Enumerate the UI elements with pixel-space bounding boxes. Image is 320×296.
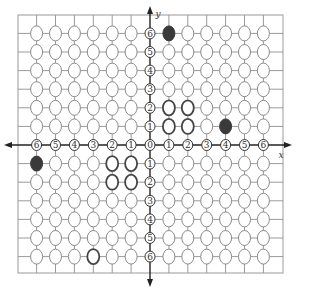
grid-point[interactable]	[106, 45, 118, 60]
grid-point[interactable]	[50, 26, 62, 41]
grid-point[interactable]	[257, 193, 269, 208]
grid-point[interactable]	[68, 82, 80, 97]
grid-point[interactable]	[31, 119, 43, 134]
grid-point[interactable]	[239, 63, 251, 78]
grid-point[interactable]	[182, 193, 194, 208]
grid-point[interactable]	[125, 63, 137, 78]
grid-point[interactable]	[87, 45, 99, 60]
grid-point[interactable]	[239, 119, 251, 134]
grid-point[interactable]	[87, 100, 99, 115]
grid-point[interactable]	[31, 63, 43, 78]
grid-point[interactable]	[87, 63, 99, 78]
grid-point[interactable]	[163, 82, 175, 97]
grid-point[interactable]	[239, 249, 251, 264]
grid-point[interactable]	[220, 212, 232, 227]
grid-point[interactable]	[182, 156, 194, 171]
grid-point[interactable]	[125, 231, 137, 246]
grid-point[interactable]	[201, 175, 213, 190]
grid-point[interactable]	[87, 119, 99, 134]
grid-point[interactable]	[220, 26, 232, 41]
grid-point[interactable]	[106, 212, 118, 227]
grid-point[interactable]	[257, 231, 269, 246]
grid-point[interactable]	[239, 231, 251, 246]
grid-point[interactable]	[68, 193, 80, 208]
grid-point[interactable]	[50, 82, 62, 97]
grid-point[interactable]	[201, 193, 213, 208]
grid-point[interactable]	[201, 100, 213, 115]
grid-point[interactable]	[125, 100, 137, 115]
grid-point[interactable]	[182, 63, 194, 78]
grid-point[interactable]	[50, 45, 62, 60]
grid-point[interactable]	[239, 156, 251, 171]
grid-point[interactable]	[68, 119, 80, 134]
grid-point[interactable]	[31, 231, 43, 246]
grid-point[interactable]	[68, 212, 80, 227]
grid-point[interactable]	[220, 45, 232, 60]
grid-point[interactable]	[220, 193, 232, 208]
grid-point[interactable]	[220, 175, 232, 190]
grid-point[interactable]	[106, 100, 118, 115]
grid-point[interactable]	[31, 193, 43, 208]
grid-point[interactable]	[163, 175, 175, 190]
grid-point[interactable]	[220, 100, 232, 115]
grid-point[interactable]	[68, 100, 80, 115]
grid-point[interactable]	[68, 231, 80, 246]
grid-point[interactable]	[125, 193, 137, 208]
grid-point[interactable]	[220, 156, 232, 171]
grid-point[interactable]	[257, 82, 269, 97]
grid-point[interactable]	[220, 249, 232, 264]
grid-point[interactable]	[31, 82, 43, 97]
grid-point[interactable]	[125, 249, 137, 264]
grid-point[interactable]	[201, 63, 213, 78]
grid-point[interactable]	[106, 193, 118, 208]
grid-point[interactable]	[257, 100, 269, 115]
grid-point[interactable]	[106, 26, 118, 41]
grid-point[interactable]	[87, 156, 99, 171]
grid-point[interactable]	[220, 63, 232, 78]
grid-point[interactable]	[182, 249, 194, 264]
grid-point[interactable]	[68, 175, 80, 190]
grid-point[interactable]	[50, 119, 62, 134]
grid-point[interactable]	[68, 249, 80, 264]
grid-point[interactable]	[201, 45, 213, 60]
grid-point[interactable]	[87, 193, 99, 208]
grid-point[interactable]	[257, 45, 269, 60]
grid-point[interactable]	[125, 26, 137, 41]
grid-point[interactable]	[163, 63, 175, 78]
grid-point[interactable]	[182, 26, 194, 41]
grid-point[interactable]	[31, 249, 43, 264]
grid-point[interactable]	[68, 156, 80, 171]
grid-point[interactable]	[182, 82, 194, 97]
grid-point[interactable]	[239, 45, 251, 60]
grid-point[interactable]	[125, 119, 137, 134]
grid-point[interactable]	[125, 45, 137, 60]
highlighted-point[interactable]	[163, 100, 175, 115]
grid-point[interactable]	[163, 193, 175, 208]
grid-point[interactable]	[163, 231, 175, 246]
grid-point[interactable]	[257, 249, 269, 264]
grid-point[interactable]	[257, 119, 269, 134]
grid-point[interactable]	[106, 63, 118, 78]
filled-point[interactable]	[31, 156, 43, 171]
grid-point[interactable]	[163, 156, 175, 171]
grid-point[interactable]	[68, 63, 80, 78]
grid-point[interactable]	[182, 231, 194, 246]
grid-point[interactable]	[182, 212, 194, 227]
grid-point[interactable]	[257, 26, 269, 41]
grid-point[interactable]	[106, 249, 118, 264]
grid-point[interactable]	[31, 45, 43, 60]
grid-point[interactable]	[201, 249, 213, 264]
grid-point[interactable]	[87, 26, 99, 41]
grid-point[interactable]	[68, 45, 80, 60]
highlighted-point[interactable]	[182, 100, 194, 115]
grid-point[interactable]	[50, 156, 62, 171]
grid-point[interactable]	[201, 119, 213, 134]
grid-point[interactable]	[239, 26, 251, 41]
grid-point[interactable]	[201, 231, 213, 246]
grid-point[interactable]	[50, 212, 62, 227]
grid-point[interactable]	[257, 175, 269, 190]
grid-point[interactable]	[163, 249, 175, 264]
grid-point[interactable]	[87, 82, 99, 97]
grid-point[interactable]	[106, 82, 118, 97]
grid-point[interactable]	[257, 156, 269, 171]
